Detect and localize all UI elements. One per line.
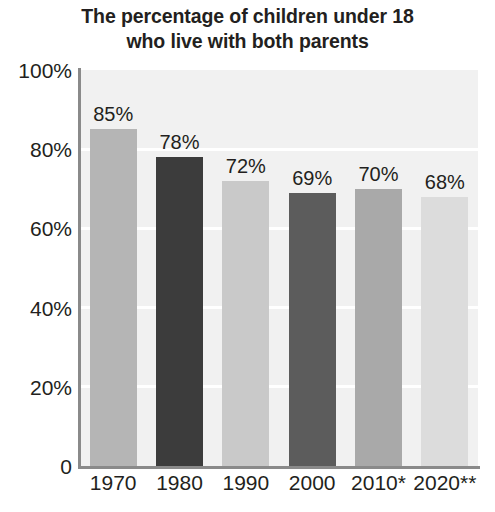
bar-2020starstar[interactable] (421, 197, 468, 466)
bar-value-label: 68% (409, 172, 480, 192)
bar-chart: The percentage of children under 18 who … (0, 0, 495, 512)
plot-area (80, 70, 478, 466)
bar-value-label: 72% (210, 156, 281, 176)
bar-1980[interactable] (156, 157, 203, 466)
gridline (80, 148, 478, 151)
bar-1990[interactable] (222, 181, 269, 466)
bar-value-label: 85% (78, 104, 149, 124)
bar-value-label: 70% (343, 164, 414, 184)
y-tick-label: 60% (0, 218, 72, 239)
bar-2000[interactable] (289, 193, 336, 466)
y-tick-label: 100% (0, 60, 72, 81)
y-tick-label: 40% (0, 298, 72, 319)
y-tick-label: 0 (0, 456, 72, 477)
gridline (80, 306, 478, 309)
y-tick-label: 20% (0, 377, 72, 398)
y-tick-label: 80% (0, 139, 72, 160)
bar-value-label: 78% (144, 132, 215, 152)
gridline (80, 227, 478, 230)
y-axis-line (78, 68, 81, 468)
x-tick-label: 2020** (403, 472, 487, 493)
gridline (80, 385, 478, 388)
chart-title: The percentage of children under 18 who … (0, 4, 495, 54)
x-axis-line (78, 466, 480, 469)
bar-2010star[interactable] (355, 189, 402, 466)
bar-value-label: 69% (277, 168, 348, 188)
bar-1970[interactable] (90, 129, 137, 466)
